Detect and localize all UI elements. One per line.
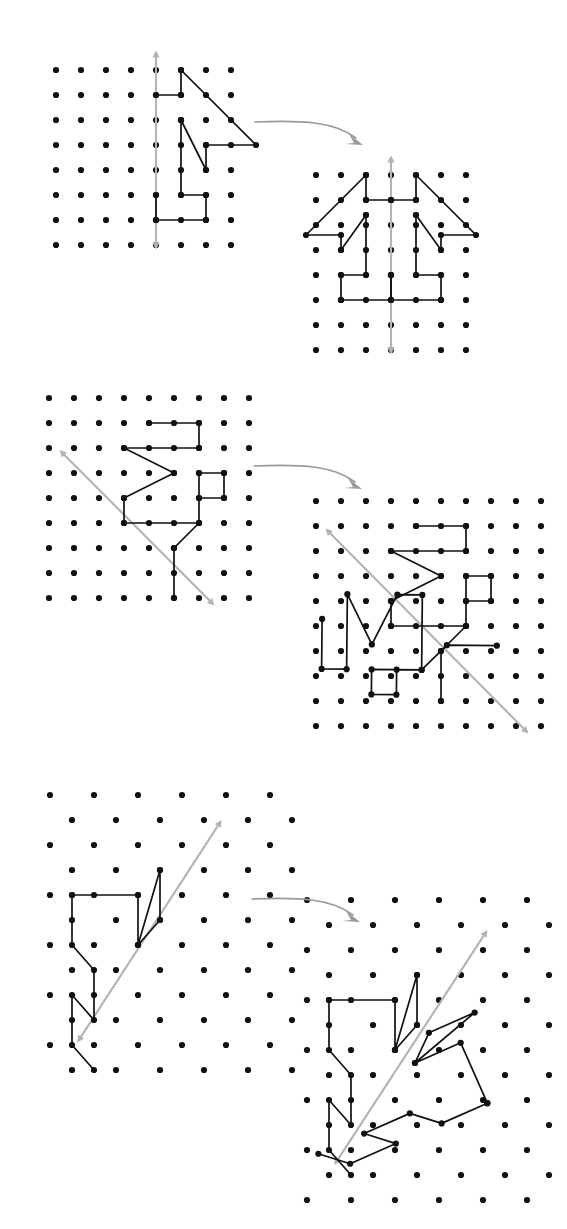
lattice-dot xyxy=(304,1097,310,1103)
lattice-dot xyxy=(121,570,127,576)
lattice-dot xyxy=(201,967,207,973)
lattice-dot xyxy=(388,673,394,679)
lattice-dot xyxy=(480,897,486,903)
lattice-dot xyxy=(203,117,209,123)
lattice-dot xyxy=(78,142,84,148)
lattice-dot xyxy=(488,723,494,729)
path-vertex xyxy=(388,272,394,278)
panel-row2-reflected xyxy=(292,478,567,758)
path-vertex xyxy=(203,217,209,223)
lattice-dot xyxy=(488,648,494,654)
lattice-dot xyxy=(480,1047,486,1053)
lattice-dot xyxy=(348,1047,354,1053)
lattice-dot xyxy=(46,595,52,601)
lattice-dot xyxy=(326,1172,332,1178)
lattice-dot xyxy=(91,942,97,948)
path-vertex xyxy=(196,520,202,526)
lattice-dot xyxy=(338,648,344,654)
lattice-dot xyxy=(304,1147,310,1153)
lattice-dot xyxy=(458,1072,464,1078)
lattice-dot xyxy=(338,548,344,554)
lattice-dot xyxy=(96,420,102,426)
path-vertex xyxy=(363,197,369,203)
lattice-dot xyxy=(47,942,53,948)
path-vertex xyxy=(344,591,350,597)
lattice-dot xyxy=(413,598,419,604)
lattice-dot xyxy=(128,242,134,248)
lattice-dot xyxy=(463,498,469,504)
lattice-dot xyxy=(338,673,344,679)
lattice-dot xyxy=(53,92,59,98)
path-vertex xyxy=(319,616,325,622)
lattice-dot xyxy=(113,1067,119,1073)
lattice-dot xyxy=(313,297,319,303)
lattice-dot xyxy=(502,1072,508,1078)
path-vertex xyxy=(69,992,75,998)
path-vertex xyxy=(363,272,369,278)
path-vertex xyxy=(414,972,420,978)
path-vertex xyxy=(407,1110,413,1116)
path-vertex xyxy=(146,420,152,426)
path-vertex xyxy=(414,1022,420,1028)
lattice-dot xyxy=(223,842,229,848)
lattice-dot xyxy=(304,1197,310,1203)
lattice-dot xyxy=(463,247,469,253)
lattice-dot xyxy=(338,322,344,328)
path-vertex xyxy=(458,1040,464,1046)
path-vertex xyxy=(178,192,184,198)
lattice-dot xyxy=(370,972,376,978)
lattice-dot xyxy=(146,545,152,551)
lattice-dot xyxy=(338,523,344,529)
lattice-dot xyxy=(488,623,494,629)
lattice-dot xyxy=(128,92,134,98)
figure-root xyxy=(0,0,567,1229)
lattice-dot xyxy=(267,942,273,948)
path-vertex xyxy=(171,470,177,476)
path-vertex xyxy=(196,495,202,501)
lattice-dot xyxy=(463,197,469,203)
lattice-dot xyxy=(458,922,464,928)
lattice-dot xyxy=(538,548,544,554)
path-vertex xyxy=(413,197,419,203)
lattice-dot xyxy=(47,892,53,898)
lattice-dot xyxy=(502,922,508,928)
lattice-dot xyxy=(179,842,185,848)
path-vertex xyxy=(171,595,177,601)
lattice-dot xyxy=(480,1147,486,1153)
lattice-dot xyxy=(179,942,185,948)
lattice-dot xyxy=(524,1197,530,1203)
lattice-dot xyxy=(96,570,102,576)
lattice-dot xyxy=(348,1197,354,1203)
path-vertex xyxy=(388,548,394,554)
lattice-dot xyxy=(438,322,444,328)
lattice-dot xyxy=(46,395,52,401)
path-segment-upper-left-mirror xyxy=(306,175,391,250)
path-vertex xyxy=(203,192,209,198)
lattice-dot xyxy=(223,942,229,948)
lattice-dot xyxy=(228,92,234,98)
lattice-dot xyxy=(348,947,354,953)
lattice-dot xyxy=(338,172,344,178)
path-vertex xyxy=(344,666,350,672)
path-vertex xyxy=(69,1042,75,1048)
lattice-dot xyxy=(413,498,419,504)
lattice-dot xyxy=(538,623,544,629)
lattice-dot xyxy=(538,573,544,579)
lattice-dot xyxy=(96,595,102,601)
lattice-dot xyxy=(488,548,494,554)
lattice-dot xyxy=(221,520,227,526)
lattice-dot xyxy=(96,470,102,476)
path-vertex xyxy=(412,1060,418,1066)
lattice-dot xyxy=(438,222,444,228)
path-vertex xyxy=(347,1161,353,1167)
path-polyline-lower-original xyxy=(329,1000,351,1175)
lattice-dot xyxy=(245,817,251,823)
path-vertex xyxy=(392,997,398,1003)
lattice-dot xyxy=(113,917,119,923)
path-vertex xyxy=(135,892,141,898)
lattice-dot xyxy=(414,1172,420,1178)
mirror-axis-diagonal-line xyxy=(329,532,525,730)
path-vertex xyxy=(157,867,163,873)
lattice-dot xyxy=(338,698,344,704)
lattice-dot xyxy=(46,470,52,476)
